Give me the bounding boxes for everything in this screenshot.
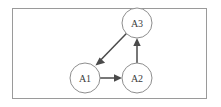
figure-root: A1 A2 A3 (0, 0, 221, 107)
edge-a2-to-a3 (133, 38, 140, 63)
edge-a1-to-a2 (100, 74, 122, 81)
edge-a3-to-a1-arrowhead (95, 57, 105, 65)
graph-node-a1[interactable]: A1 (70, 63, 100, 93)
edge-a2-to-a3-arrowhead (133, 38, 140, 46)
graph-node-a1-label: A1 (79, 73, 91, 84)
directed-graph-canvas: A1 A2 A3 (0, 0, 221, 107)
edge-a1-to-a2-arrowhead (114, 74, 122, 81)
graph-node-a2-label: A2 (131, 73, 143, 84)
graph-node-a2[interactable]: A2 (122, 63, 152, 93)
edge-a3-to-a1 (95, 34, 126, 66)
graph-node-a3-label: A3 (131, 18, 143, 29)
graph-node-a3[interactable]: A3 (122, 8, 152, 38)
edge-a3-to-a1-line (100, 34, 127, 62)
